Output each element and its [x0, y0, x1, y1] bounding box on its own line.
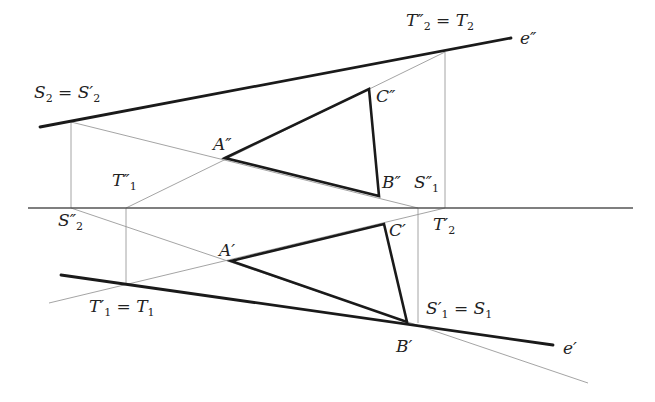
label-C-double-prime: C″ — [376, 88, 395, 105]
label-A-double-prime: A″ — [213, 136, 232, 153]
label-B-double-prime: B″ — [382, 174, 401, 191]
triangle-ABC-prime — [231, 224, 407, 322]
S2-to-S1dd — [71, 122, 418, 208]
label-B-prime: B′ — [396, 338, 412, 355]
label-A-prime: A′ — [219, 242, 235, 259]
label-S1p-eq-S1: S′1 = S1 — [426, 300, 492, 320]
construction-lines — [49, 52, 588, 383]
label-S1-double-prime: S″1 — [414, 174, 439, 194]
diagram-canvas — [0, 0, 655, 402]
label-T2dd-eq-T2: T″2 = T2 — [406, 12, 474, 32]
label-e-prime: e′ — [563, 340, 577, 357]
label-C-prime: C′ — [389, 222, 406, 239]
T1-to-T2p — [49, 208, 445, 303]
label-S2-double-prime: S″2 — [58, 212, 83, 232]
label-S2-eq-S2p: S2 = S′2 — [34, 84, 100, 104]
triangle-ABC-double-prime — [225, 89, 379, 196]
label-T2-prime: T′2 — [433, 216, 455, 236]
line-e-double-prime — [40, 38, 511, 127]
label-e-double-prime: e″ — [520, 30, 536, 47]
label-T1-double-prime: T″1 — [112, 172, 137, 192]
label-T1p-eq-T1: T′1 = T1 — [89, 298, 155, 318]
